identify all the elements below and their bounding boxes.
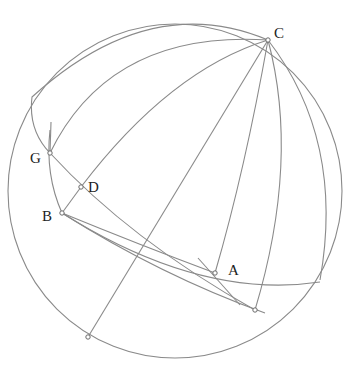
diameter-C-P2 [88, 40, 268, 337]
point-a [213, 271, 217, 275]
line-DB [62, 187, 81, 213]
great-circle-CD [81, 40, 268, 187]
sphere-outline [8, 24, 342, 358]
arc-B-A-right [62, 213, 320, 285]
great-circle-C-top-left [31, 24, 268, 153]
great-circle-C-P1 [255, 40, 281, 310]
spherical-diagram: CGDBA [0, 0, 357, 370]
point-c [266, 38, 270, 42]
label-c: C [274, 25, 284, 41]
point-p2 [86, 335, 90, 339]
diagram-canvas: CGDBA [0, 0, 357, 370]
point-g [48, 151, 52, 155]
great-circle-C-A [215, 40, 268, 273]
arc-B-A [62, 213, 215, 273]
point-d [79, 185, 83, 189]
label-b: B [42, 208, 52, 224]
tick-G [50, 122, 51, 153]
label-d: D [88, 179, 99, 195]
point-b [60, 211, 64, 215]
point-p1 [253, 308, 257, 312]
label-a: A [228, 262, 239, 278]
great-circle-C-right [268, 40, 326, 280]
great-circle-CG [50, 39, 268, 153]
curves-group [31, 24, 326, 337]
label-g: G [30, 150, 41, 166]
